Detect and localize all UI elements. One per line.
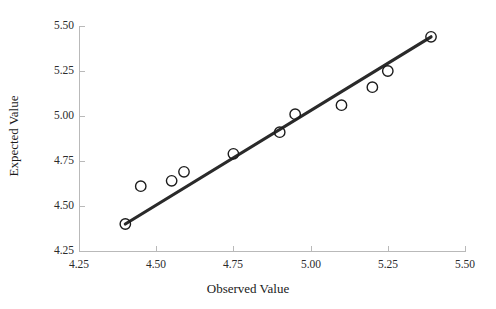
data-point-marker bbox=[383, 66, 393, 76]
data-point-marker bbox=[166, 176, 176, 186]
data-point-marker bbox=[290, 109, 300, 119]
x-axis-title: Observed Value bbox=[0, 281, 496, 297]
data-point-marker bbox=[336, 100, 346, 110]
data-point-marker bbox=[367, 82, 377, 92]
y-axis-title: Expected Value bbox=[6, 56, 22, 216]
scatter-plot-svg bbox=[0, 0, 496, 309]
data-point-marker bbox=[136, 181, 146, 191]
data-point-marker bbox=[179, 167, 189, 177]
trend-line bbox=[125, 37, 431, 224]
scatter-chart: 4.254.504.755.005.255.504.254.504.755.00… bbox=[0, 0, 496, 309]
